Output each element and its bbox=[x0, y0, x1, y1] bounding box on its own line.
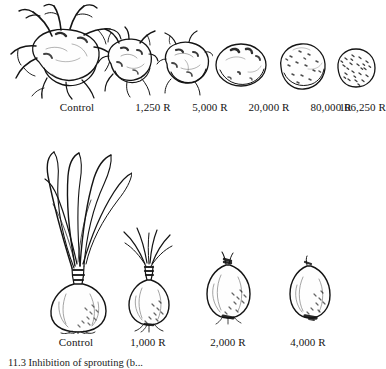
potato-specimen-1250r bbox=[97, 26, 159, 98]
onion-label-4000r: 4,000 R bbox=[280, 336, 336, 349]
potato-label-5000r: 5,000 R bbox=[182, 101, 238, 114]
potato-specimen-5000r bbox=[155, 30, 213, 96]
potato-specimen-band bbox=[0, 0, 383, 100]
potato-label-control: Control bbox=[51, 101, 103, 114]
onion-specimen-1000r bbox=[118, 222, 180, 334]
onion-label-band: Control 1,000 R 2,000 R 4,000 R bbox=[0, 336, 383, 350]
figure-caption: 11.3 Inhibition of sprouting (b... bbox=[8, 356, 383, 369]
potato-label-1250r: 1,250 R bbox=[125, 101, 181, 114]
potato-specimen-80000r bbox=[275, 38, 329, 94]
figure-caption-text: 11.3 Inhibition of sprouting (b... bbox=[8, 357, 143, 368]
specimen-row-potatoes: Control 1,250 R 5,000 R 20,000 R 80,000 … bbox=[0, 0, 383, 118]
potato-label-band: Control 1,250 R 5,000 R 20,000 R 80,000 … bbox=[0, 101, 383, 115]
potato-specimen-20000r bbox=[212, 36, 270, 94]
onion-label-control: Control bbox=[48, 336, 104, 349]
onion-label-1000r: 1,000 R bbox=[120, 336, 176, 349]
onion-specimen-4000r bbox=[283, 252, 335, 332]
onion-specimen-band bbox=[0, 140, 383, 336]
potato-label-106250r: 106,250 R bbox=[314, 101, 386, 114]
potato-specimen-106250r bbox=[333, 44, 379, 92]
onion-specimen-2000r bbox=[200, 246, 256, 334]
onion-specimen-control bbox=[28, 142, 132, 334]
onion-label-2000r: 2,000 R bbox=[200, 336, 256, 349]
specimen-row-onions: Control 1,000 R 2,000 R 4,000 R bbox=[0, 140, 383, 352]
potato-label-20000r: 20,000 R bbox=[237, 101, 301, 114]
